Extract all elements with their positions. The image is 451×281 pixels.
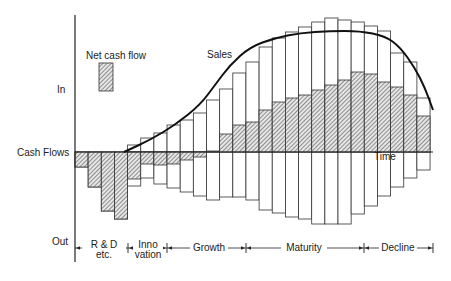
net-cash-flow-bar: [259, 110, 272, 152]
net-cash-flow-bar: [351, 72, 364, 152]
net-cash-flow-bar: [285, 98, 298, 152]
phase-growth: Growth: [190, 243, 228, 253]
net-cash-flow-bar: [364, 74, 377, 152]
net-cash-flow-bar: [88, 152, 101, 187]
net-cash-flow-bar: [377, 82, 390, 152]
phase-rd: R & D etc.: [82, 240, 126, 260]
arrowhead-icon: [365, 246, 369, 250]
net-cash-flow-bar: [128, 152, 141, 179]
net-cash-flow-bar: [167, 152, 180, 164]
inflow-bar: [193, 113, 206, 152]
net-cash-flow-bar: [338, 80, 351, 152]
outflow-bar: [325, 152, 338, 224]
net-cash-flow-bar: [233, 125, 246, 152]
outflow-bar: [351, 152, 364, 214]
net-cash-flow-bar: [193, 152, 206, 157]
y-label-in: In: [57, 84, 65, 95]
net-cash-flow-bar: [154, 152, 167, 165]
y-label-out: Out: [52, 236, 68, 247]
outflow-bar: [338, 152, 351, 224]
outflow-bar: [233, 152, 246, 197]
phase-rd-line2: etc.: [82, 250, 126, 260]
net-cash-flow-bar: [180, 152, 193, 160]
outflow-bar: [220, 152, 233, 197]
outflow-bar: [193, 152, 206, 196]
legend-label-net-cash-flow: Net cash flow: [86, 50, 146, 61]
y-label-cash-flows: Cash Flows: [17, 147, 69, 158]
outflow-bar: [404, 152, 417, 178]
outflow-bar: [207, 152, 220, 200]
arrowhead-icon: [247, 246, 251, 250]
product-life-cycle-cash-flow-diagram: Net cash flow Sales In Cash Flows Out Ti…: [0, 0, 451, 281]
inflow-bar: [207, 100, 220, 152]
inflow-bar: [180, 120, 193, 152]
net-cash-flow-bar: [417, 116, 430, 152]
net-cash-flow-bar: [391, 87, 404, 152]
net-cash-flow-bar: [312, 90, 325, 152]
net-cash-flow-bar: [141, 152, 154, 164]
net-cash-flow-bar: [75, 152, 88, 167]
phase-decline: Decline: [379, 243, 417, 253]
arrowhead-icon: [241, 246, 245, 250]
net-cash-flow-bar: [220, 134, 233, 152]
outflow-bar: [312, 152, 325, 224]
net-cash-flow-bar: [101, 152, 114, 211]
outflow-bar: [272, 152, 285, 213]
outflow-bar: [246, 152, 259, 200]
phase-innovation: Inno vation: [133, 240, 163, 260]
bars-group: [75, 18, 430, 224]
arrowhead-icon: [168, 246, 172, 250]
arrowhead-icon: [428, 246, 432, 250]
net-cash-flow-bar: [246, 122, 259, 152]
time-axis-label: Time: [374, 151, 396, 162]
net-cash-flow-bar: [272, 102, 285, 152]
net-cash-flow-bar: [299, 95, 312, 152]
outflow-bar: [285, 152, 298, 217]
outflow-bar: [259, 152, 272, 210]
net-cash-flow-bar: [114, 152, 127, 219]
arrowhead-icon: [76, 246, 80, 250]
arrowhead-icon: [359, 246, 363, 250]
outflow-bar: [299, 152, 312, 219]
sales-curve-label: Sales: [207, 49, 232, 60]
phase-maturity: Maturity: [281, 243, 327, 253]
phase-innovation-line2: vation: [133, 250, 163, 260]
outflow-bar: [417, 152, 430, 170]
net-cash-flow-bar: [404, 95, 417, 152]
legend-swatch: [99, 63, 113, 91]
net-cash-flow-bar: [325, 85, 338, 152]
